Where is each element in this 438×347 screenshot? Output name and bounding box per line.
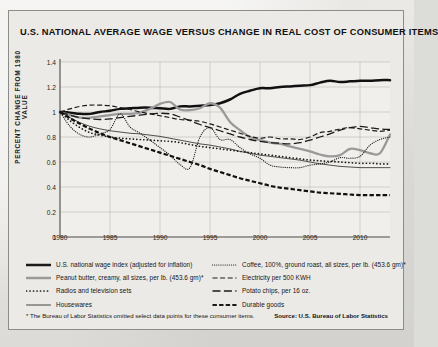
legend-label: Electricity per 500 KWH	[242, 274, 311, 281]
legend-item[interactable]: Electricity per 500 KWH	[212, 273, 311, 282]
legend-label: Housewares	[56, 301, 92, 308]
legend-item[interactable]: Housewares	[26, 300, 92, 309]
legend-label: Potato chips, per 16 oz.	[242, 287, 310, 294]
legend-line-swatch	[212, 300, 237, 309]
legend-item[interactable]: Peanut butter, creamy, all sizes, per lb…	[26, 273, 203, 282]
legend-item[interactable]: U.S. national wage index (adjusted for i…	[26, 260, 192, 269]
legend-line-swatch	[212, 286, 237, 295]
legend-label: Peanut butter, creamy, all sizes, per lb…	[56, 274, 203, 281]
legend-line-swatch	[212, 260, 237, 269]
legend-line-swatch	[26, 260, 51, 269]
legend-line-swatch	[26, 286, 51, 295]
legend-item[interactable]: Potato chips, per 16 oz.	[212, 286, 310, 295]
legend-label: Durable goods	[242, 301, 284, 308]
legend-item[interactable]: Durable goods	[212, 300, 284, 309]
legend-label: Radios and television sets	[56, 287, 132, 294]
legend-line-swatch	[26, 300, 51, 309]
legend-label: U.S. national wage index (adjusted for i…	[56, 261, 192, 268]
legend-label: Coffee, 100%, ground roast, all sizes, p…	[242, 261, 406, 268]
footnote-text: * The Bureau of Labor Statistics omitted…	[26, 312, 255, 319]
legend-item[interactable]: Radios and television sets	[26, 286, 132, 295]
source-text: Source: U.S. Bureau of Labor Statistics	[274, 312, 388, 319]
legend-line-swatch	[212, 273, 237, 282]
legend-item[interactable]: Coffee, 100%, ground roast, all sizes, p…	[212, 260, 406, 269]
legend-line-swatch	[26, 273, 51, 282]
